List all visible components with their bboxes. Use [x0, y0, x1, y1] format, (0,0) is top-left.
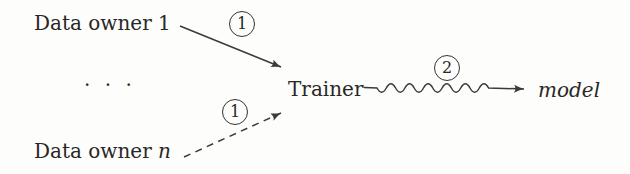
edge-owner1-to-trainer-solid-arrow — [180, 26, 281, 67]
node-data-owner-1: Data owner 1 — [34, 13, 171, 33]
node-data-owner-n: Data owner n — [34, 141, 171, 161]
edge-trainer-to-model-wavy-arrow — [364, 84, 524, 93]
diagram-canvas: Data owner 1 . . . Data owner n Trainer … — [0, 0, 630, 174]
step-badge-1-top: 1 — [229, 11, 255, 37]
node-data-owner-n-prefix: Data owner — [34, 139, 158, 163]
node-data-owner-n-var: n — [158, 139, 171, 163]
step-badge-1-bottom: 1 — [222, 99, 248, 125]
node-model: model — [538, 80, 600, 100]
ellipsis-dots: . . . — [84, 69, 136, 89]
step-badge-2: 2 — [434, 55, 460, 81]
node-trainer: Trainer — [288, 79, 364, 99]
